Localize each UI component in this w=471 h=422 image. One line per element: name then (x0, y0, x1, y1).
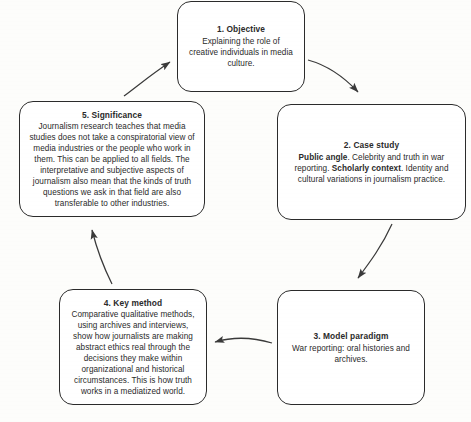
node-model-paradigm-title: 3. Model paradigm (313, 331, 388, 342)
arrow-objective-to-case-study (308, 60, 358, 92)
diagram-canvas: 1. Objective Explaining the role of crea… (0, 0, 471, 422)
arrow-model-paradigm-to-key-method (215, 338, 272, 343)
node-significance[interactable]: 5. Significance Journalism research teac… (19, 101, 205, 217)
arrow-significance-to-objective (124, 62, 170, 96)
node-case-study-body: Public angle. Celebrity and truth in war… (285, 152, 458, 185)
node-key-method-body: Comparative qualitative methods, using a… (67, 309, 199, 397)
node-significance-body: Journalism research teaches that media s… (27, 121, 197, 209)
node-model-paradigm[interactable]: 3. Model paradigm War reporting: oral hi… (277, 290, 425, 405)
node-case-study-title: 2. Case study (344, 140, 399, 151)
node-model-paradigm-body: War reporting: oral histories and archiv… (285, 343, 417, 365)
node-objective-body: Explaining the role of creative individu… (185, 36, 297, 69)
node-objective[interactable]: 1. Objective Explaining the role of crea… (177, 1, 305, 92)
node-key-method[interactable]: 4. Key method Comparative qualitative me… (59, 289, 207, 405)
node-key-method-title: 4. Key method (104, 298, 163, 309)
arrow-key-method-to-significance (92, 230, 112, 284)
node-significance-title: 5. Significance (82, 110, 142, 121)
arrow-case-study-to-model-paradigm (358, 224, 392, 278)
node-case-study[interactable]: 2. Case study Public angle. Celebrity an… (277, 104, 466, 220)
node-objective-title: 1. Objective (217, 24, 265, 35)
